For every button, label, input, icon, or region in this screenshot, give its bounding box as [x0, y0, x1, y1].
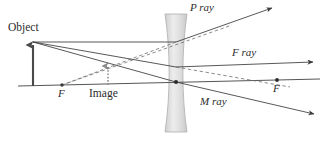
focal-point-left-label: F [58, 87, 65, 99]
m-ray-label: M ray [200, 95, 227, 107]
focal-point-right-label: F [273, 82, 280, 94]
p-ray-label-letter: P ray [190, 1, 214, 13]
concave-lens [165, 14, 187, 132]
object-label: Object [8, 21, 39, 33]
p-ray-label: P ray [190, 1, 214, 13]
construction-line-left-focus [62, 25, 232, 85]
m-ray-label-letter: M ray [200, 95, 227, 107]
ray-diagram-svg [0, 0, 336, 146]
f-ray-label-letter: F ray [232, 46, 256, 58]
lens-center-dot [174, 80, 178, 84]
f-ray-label: F ray [232, 46, 256, 58]
image-label: Image [89, 87, 118, 99]
ray-diagram-canvas: Object Image F F P ray F ray M ray [0, 0, 336, 146]
